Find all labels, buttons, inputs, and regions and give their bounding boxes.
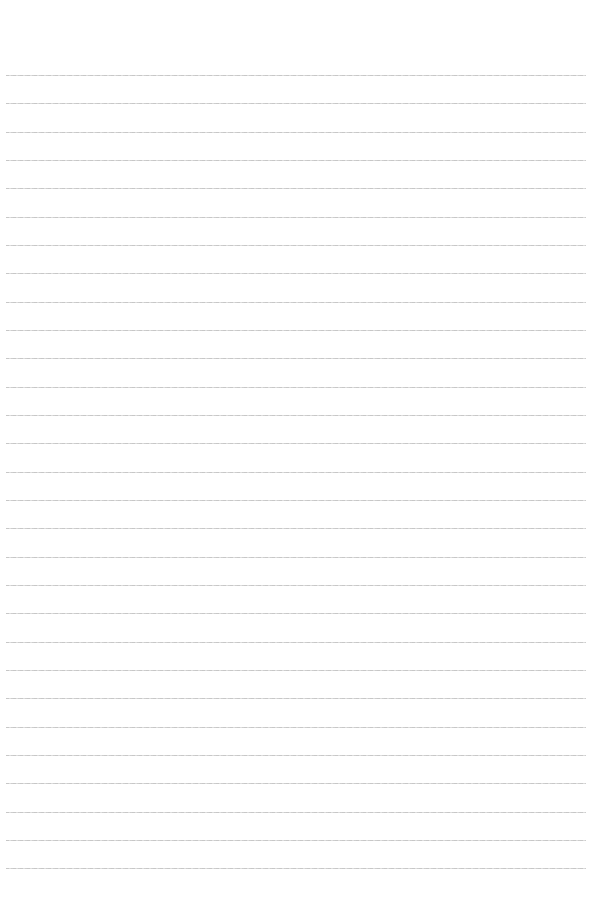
ruled-line [6, 358, 586, 359]
ruled-line [6, 613, 586, 614]
ruled-line [6, 755, 586, 756]
ruled-line [6, 415, 586, 416]
ruled-line [6, 528, 586, 529]
ruled-line [6, 472, 586, 473]
ruled-line [6, 642, 586, 643]
ruled-line [6, 302, 586, 303]
ruled-line [6, 783, 586, 784]
ruled-line [6, 840, 586, 841]
ruled-line [6, 217, 586, 218]
ruled-line [6, 585, 586, 586]
ruled-line [6, 103, 586, 104]
ruled-line [6, 160, 586, 161]
ruled-line [6, 557, 586, 558]
lined-paper-page [0, 0, 616, 924]
ruled-line [6, 245, 586, 246]
ruled-line [6, 188, 586, 189]
ruled-line [6, 273, 586, 274]
ruled-line [6, 75, 586, 76]
ruled-line [6, 698, 586, 699]
ruled-line [6, 330, 586, 331]
ruled-line [6, 443, 586, 444]
ruled-line [6, 868, 586, 869]
ruled-line [6, 670, 586, 671]
ruled-line [6, 132, 586, 133]
ruled-line [6, 387, 586, 388]
ruled-line [6, 500, 586, 501]
ruled-line [6, 727, 586, 728]
ruled-line [6, 812, 586, 813]
